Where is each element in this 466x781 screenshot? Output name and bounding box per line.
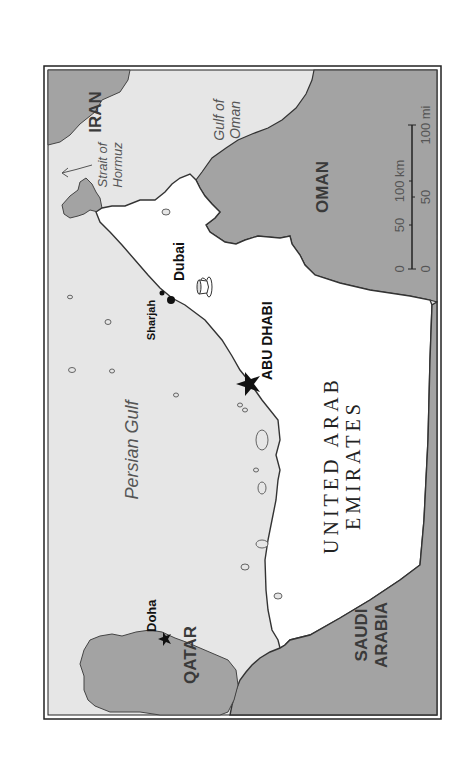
sharjah-marker	[160, 291, 165, 296]
label-oman: OMAN	[313, 161, 332, 213]
label-gulf-of-oman-line1: Gulf of	[211, 97, 227, 140]
label-uae-line2: EMIRATES	[342, 400, 364, 530]
label-iran: IRAN	[86, 91, 105, 133]
label-gulf-of-oman-line2: Oman	[227, 101, 243, 139]
label-uae-line1: UNITED ARAB	[320, 376, 342, 554]
label-saudi-line2: ARABIA	[372, 602, 391, 668]
scale-km-0: 0	[392, 265, 407, 272]
label-dubai: Dubai	[171, 242, 187, 281]
scale-mi-100: 100 mi	[418, 105, 433, 144]
uae-map: IRAN Strait of Hormuz Gulf of Oman OMAN …	[0, 0, 466, 781]
scale-mi-50: 50	[418, 190, 433, 204]
label-strait-line2: Hormuz	[110, 142, 125, 188]
label-qatar: QATAR	[181, 626, 200, 684]
scale-km-100: 100 km	[392, 160, 407, 203]
scale-mi-0: 0	[418, 265, 433, 272]
label-persian-gulf: Persian Gulf	[122, 398, 142, 499]
label-sharjah: Sharjah	[145, 300, 157, 341]
dubai-marker	[167, 296, 175, 304]
label-strait-line1: Strait of	[95, 141, 110, 187]
scale-km-50: 50	[392, 218, 407, 232]
label-abu-dhabi: ABU DHABI	[259, 301, 275, 380]
label-saudi-line1: SAUDI	[352, 609, 371, 662]
label-doha: Doha	[144, 599, 159, 632]
